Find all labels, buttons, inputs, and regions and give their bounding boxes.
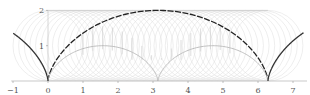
rolling-circle — [52, 10, 122, 81]
cycloid-chart: −101234567 12 — [0, 0, 310, 95]
rolling-circle — [165, 10, 235, 81]
helper-lines — [11, 10, 307, 81]
rolling-circle — [109, 10, 179, 81]
rolling-circle — [188, 10, 258, 81]
chord-lines — [83, 26, 230, 60]
x-tick-label: 7 — [290, 86, 295, 95]
x-tick-label: −1 — [7, 86, 19, 95]
rolling-circle — [210, 10, 280, 81]
x-axis-ticks: −101234567 — [7, 81, 295, 95]
x-tick-label: 0 — [45, 86, 50, 95]
rolling-circle — [24, 10, 94, 81]
rolling-circle — [227, 10, 297, 81]
rolling-circle — [120, 10, 190, 81]
cycloid-main-arch — [48, 10, 268, 81]
x-tick-label: 4 — [185, 86, 190, 95]
y-tick-label: 1 — [39, 42, 44, 51]
rolling-circle — [19, 10, 89, 81]
y-tick-label: 2 — [39, 6, 44, 15]
rolling-circles — [13, 10, 303, 81]
x-tick-label: 5 — [220, 86, 225, 95]
rolling-circle — [222, 10, 292, 81]
rolling-circle — [193, 10, 263, 81]
rolling-circle — [233, 10, 303, 81]
x-tick-label: 1 — [80, 86, 85, 95]
rolling-circle — [137, 10, 207, 81]
x-tick-label: 3 — [150, 86, 155, 95]
rolling-circle — [126, 10, 196, 81]
rolling-circle — [114, 10, 184, 81]
x-tick-label: 6 — [255, 86, 260, 95]
rolling-circle — [81, 10, 151, 81]
x-tick-label: 2 — [115, 86, 120, 95]
rolling-circle — [216, 10, 286, 81]
